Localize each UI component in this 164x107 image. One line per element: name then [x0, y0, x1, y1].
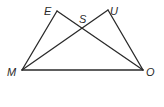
label-S: S	[79, 13, 87, 25]
label-U: U	[110, 5, 118, 17]
label-E: E	[44, 5, 52, 17]
label-M: M	[7, 66, 17, 78]
label-O: O	[146, 66, 155, 78]
segment-ME	[22, 11, 57, 70]
geometry-diagram: E S U M O	[0, 0, 164, 107]
segment-MU	[22, 10, 108, 70]
segment-EO	[57, 11, 143, 70]
segment-UO	[108, 10, 143, 70]
